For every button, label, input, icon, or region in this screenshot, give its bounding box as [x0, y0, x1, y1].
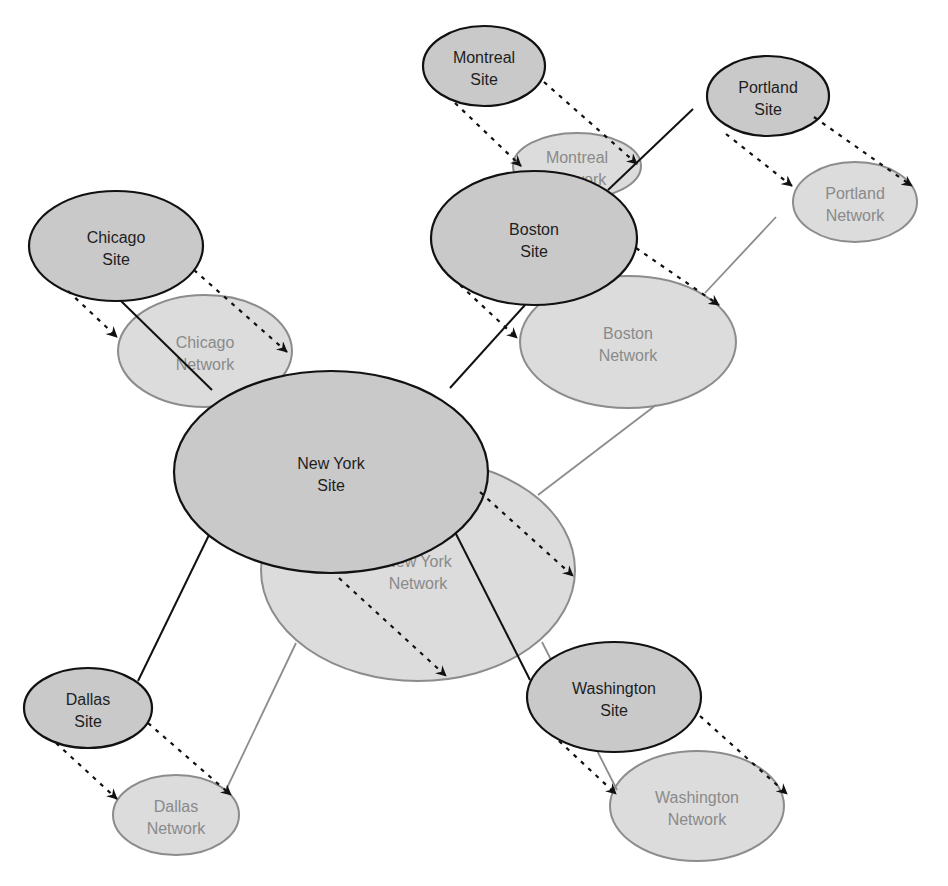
new-york-site-ellipse	[174, 371, 488, 573]
boston-site: BostonSite	[431, 171, 637, 305]
dallas-site-ellipse	[24, 668, 152, 748]
network-sites-diagram: MontrealNetworkChicagoNetworkNew YorkNet…	[0, 0, 948, 886]
washington-network-ellipse	[610, 751, 784, 861]
portland-network-ellipse	[793, 162, 917, 242]
washington-network: WashingtonNetwork	[610, 751, 784, 861]
site-link-new-york-site-dallas-site	[138, 535, 209, 681]
dallas-network-ellipse	[113, 775, 239, 855]
dallas-network: DallasNetwork	[113, 775, 239, 855]
washington-site: WashingtonSite	[527, 642, 701, 752]
dallas-site: DallasSite	[24, 668, 152, 748]
network-link-new-york-network-dallas-network	[226, 643, 296, 790]
network-link-new-york-network-boston-network	[538, 405, 656, 495]
chicago-site: ChicagoSite	[29, 191, 203, 301]
portland-site: PortlandSite	[707, 56, 829, 136]
portland-network: PortlandNetwork	[793, 162, 917, 242]
montreal-site: MontrealSite	[423, 26, 545, 106]
replication-arrow-dallas-site	[56, 743, 117, 799]
chicago-site-ellipse	[29, 191, 203, 301]
washington-site-ellipse	[527, 642, 701, 752]
new-york-site: New YorkSite	[174, 371, 488, 573]
portland-site-ellipse	[707, 56, 829, 136]
site-link-new-york-site-boston-site	[450, 305, 525, 388]
replication-arrow-montreal-site	[455, 103, 521, 166]
boston-site-ellipse	[431, 171, 637, 305]
montreal-site-ellipse	[423, 26, 545, 106]
replication-arrow-portland-site	[726, 134, 792, 186]
network-link-boston-network-portland-network	[705, 217, 776, 293]
